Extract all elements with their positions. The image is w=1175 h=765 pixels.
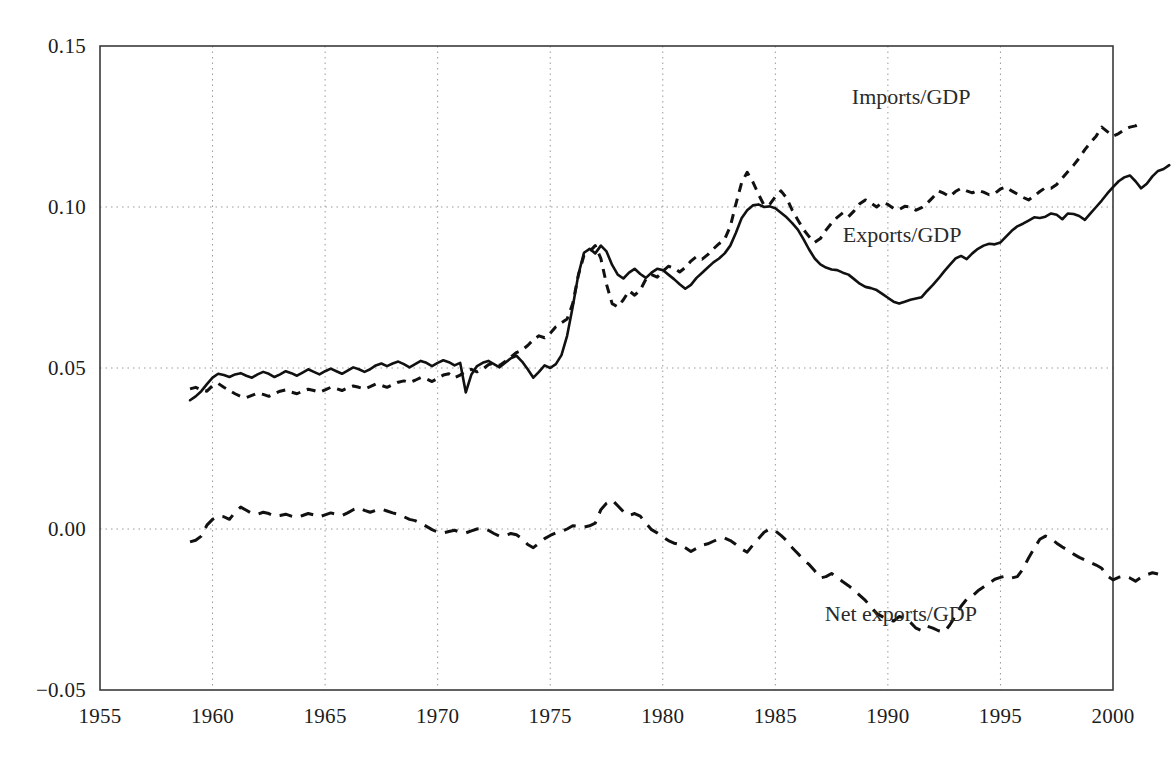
x-tick-label: 1995 [979, 704, 1022, 729]
y-tick-label: 0.15 [0, 34, 86, 59]
x-tick-label: 1975 [529, 704, 572, 729]
gridlines [100, 46, 1113, 690]
y-tick-label: 0.05 [0, 356, 86, 381]
series-label-2: Net exports/GDP [825, 601, 977, 627]
x-tick-label: 1960 [191, 704, 234, 729]
series-label-0: Imports/GDP [852, 84, 971, 110]
series-line-2 [190, 500, 1158, 632]
x-tick-label: 1970 [416, 704, 459, 729]
x-tick-label: 1965 [304, 704, 347, 729]
x-tick-label: 1990 [866, 704, 909, 729]
series-lines [190, 123, 1169, 632]
y-tick-label: 0.00 [0, 517, 86, 542]
series-line-0 [190, 123, 1141, 398]
y-tick-label: −0.05 [0, 678, 86, 703]
chart-figure: −0.050.000.050.100.15 195519601965197019… [0, 0, 1175, 765]
x-tick-label: 1955 [78, 704, 121, 729]
chart-plot-area [0, 0, 1175, 765]
x-tick-label: 1985 [754, 704, 797, 729]
x-tick-label: 2000 [1091, 704, 1134, 729]
y-tick-label: 0.10 [0, 195, 86, 220]
series-label-1: Exports/GDP [843, 222, 962, 248]
x-tick-label: 1980 [641, 704, 684, 729]
series-line-1 [190, 165, 1169, 400]
